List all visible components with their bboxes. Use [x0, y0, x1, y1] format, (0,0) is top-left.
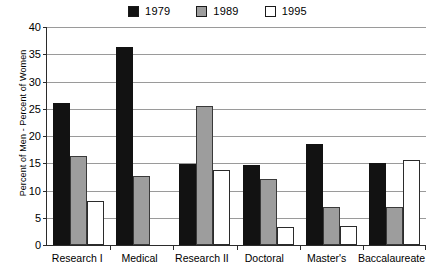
plot-area: 0510152025303540: [46, 27, 426, 246]
bar-1979: [306, 144, 323, 245]
bar-1995: [277, 227, 294, 245]
x-category-label: Research II: [171, 252, 233, 264]
bar-1995: [213, 170, 230, 245]
legend-swatch-1995: [265, 6, 276, 17]
x-tick-mark: [425, 245, 426, 250]
x-tick-mark: [110, 245, 111, 250]
x-tick-mark: [363, 245, 364, 250]
bar-1979: [53, 103, 70, 245]
bar-1995: [403, 160, 420, 245]
bar-1989: [386, 207, 403, 245]
x-tick-mark: [237, 245, 238, 250]
x-category-label: Doctoral: [233, 252, 295, 264]
bar-1989: [260, 179, 277, 245]
bar-1989: [196, 106, 213, 245]
bar-group: [237, 27, 300, 245]
bar-chart: 1979 1989 1995 Percent of Men - Percent …: [0, 0, 435, 275]
legend-item-1989: 1989: [196, 6, 238, 17]
legend-item-1979: 1979: [128, 6, 170, 17]
legend-swatch-1979: [128, 6, 139, 17]
x-category-label: Master's: [296, 252, 358, 264]
y-tick-label: 0: [35, 240, 41, 251]
y-tick-label: 20: [29, 131, 41, 142]
x-category-label: Medical: [108, 252, 170, 264]
y-tick-label: 30: [29, 76, 41, 87]
bar-1989: [323, 207, 340, 245]
x-category-label: Baccalaureate: [358, 252, 425, 264]
legend-label-1995: 1995: [282, 6, 307, 17]
bar-1989: [133, 176, 150, 245]
y-axis-title: Percent of Men - Percent of Women: [18, 28, 28, 218]
y-tick-label: 10: [29, 185, 41, 196]
bar-group: [173, 27, 236, 245]
bar-1979: [369, 163, 386, 245]
bar-1979: [243, 165, 260, 245]
bar-group: [110, 27, 173, 245]
x-tick-mark: [300, 245, 301, 250]
bar-1979: [116, 47, 133, 245]
bars-layer: [47, 27, 426, 245]
legend-label-1979: 1979: [145, 6, 170, 17]
legend-swatch-1989: [196, 6, 207, 17]
bar-1995: [340, 226, 357, 245]
bar-1995: [87, 201, 104, 245]
y-tick-label: 35: [29, 49, 41, 60]
y-tick-label: 15: [29, 158, 41, 169]
chart-legend: 1979 1989 1995: [0, 6, 435, 17]
x-axis-labels: Research IMedicalResearch IIDoctoralMast…: [46, 252, 425, 264]
x-category-label: Research I: [46, 252, 108, 264]
bar-group: [363, 27, 426, 245]
y-tick-label: 5: [35, 212, 41, 223]
bar-1989: [70, 156, 87, 245]
bar-group: [300, 27, 363, 245]
bar-group: [47, 27, 110, 245]
bar-1979: [179, 164, 196, 245]
y-tick-label: 40: [29, 22, 41, 33]
x-tick-mark: [173, 245, 174, 250]
legend-label-1989: 1989: [213, 6, 238, 17]
y-tick-label: 25: [29, 103, 41, 114]
legend-item-1995: 1995: [265, 6, 307, 17]
y-tick-mark: [43, 245, 47, 246]
